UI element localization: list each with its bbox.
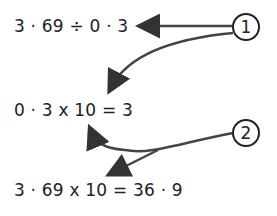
expression-line2: 0 · 3 x 10 = 3 — [14, 100, 133, 120]
arrow-step2-to-line2 — [92, 133, 233, 151]
expression-line3: 3 · 69 x 10 = 36 · 9 — [14, 180, 183, 200]
expression-line1: 3 · 69 ÷ 0 · 3 — [14, 16, 128, 36]
arrow-step2-to-line3 — [114, 150, 158, 172]
step-badge-2: 2 — [232, 119, 260, 147]
step-badge-1: 1 — [232, 13, 260, 41]
arrow-step1-to-line2 — [112, 33, 233, 86]
